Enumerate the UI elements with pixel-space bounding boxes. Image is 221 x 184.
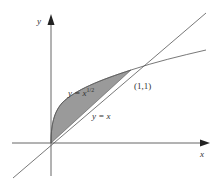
line-y-equals-x bbox=[13, 13, 206, 178]
x-axis-arrow-icon bbox=[200, 140, 210, 147]
y-axis-arrow-icon bbox=[48, 14, 55, 25]
sqrt-curve-label-base: y = x bbox=[68, 88, 87, 98]
shaded-region bbox=[51, 70, 131, 143]
sqrt-curve-label-exponent: 1/2 bbox=[87, 87, 95, 93]
x-axis-label: x bbox=[200, 150, 204, 159]
intersection-label: (1,1) bbox=[134, 82, 151, 91]
area-between-curves-diagram bbox=[0, 0, 221, 184]
y-axis-label: y bbox=[37, 17, 41, 26]
sqrt-curve-label: y = x1/2 bbox=[68, 87, 94, 98]
line-label: y = x bbox=[92, 112, 111, 121]
